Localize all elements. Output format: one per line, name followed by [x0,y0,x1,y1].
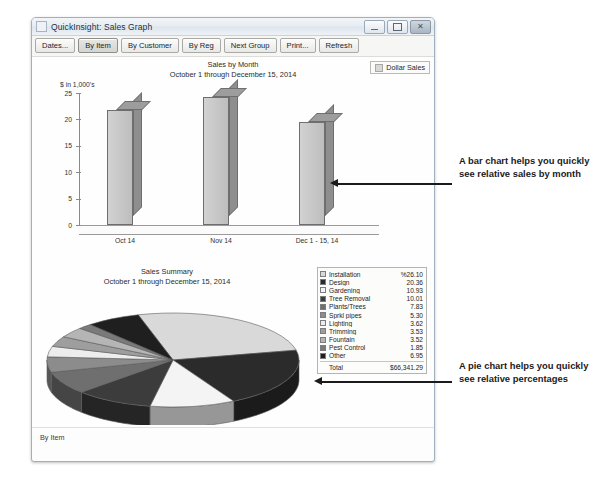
quickinsight-window: QuickInsight: Sales Graph ✕ Dates... By … [31,17,435,462]
toolbar-button-dates[interactable]: Dates... [35,38,75,53]
pie-svg [42,305,304,425]
legend-row: Other6.95 [320,352,424,360]
y-tick [76,93,81,94]
legend-value: 6.95 [410,352,424,359]
legend-swatch-icon [320,287,326,293]
legend-label: Fountain [329,336,410,343]
pie-chart-graphic [42,305,304,425]
legend-value: 10.01 [406,295,424,302]
legend-label: Sprkl pipes [329,312,410,319]
y-tick [76,199,81,200]
legend-value: 3.52 [410,336,424,343]
bar-chart: $ in 1,000's 0510152025 Oct 14Nov 14Dec … [32,79,432,277]
legend-value: 10.93 [406,287,424,294]
legend-value: 3.62 [410,320,424,327]
legend-row: Installation%26.10 [320,270,424,278]
bar-face [107,110,133,225]
legend-row: Fountain3.52 [320,336,424,344]
y-tick-label: 20 [46,116,72,123]
toolbar-button-by-reg[interactable]: By Reg [182,38,221,53]
bar-face [299,122,325,225]
title-bar[interactable]: QuickInsight: Sales Graph ✕ [32,18,434,36]
legend-swatch-icon [320,296,326,302]
legend-label: Lighting [329,320,410,327]
legend-value: %26.10 [401,271,424,278]
toolbar-button-by-item[interactable]: By Item [78,38,118,53]
y-tick-label: 15 [46,142,72,149]
legend-label: Installation [329,271,401,278]
x-tick-label: Dec 1 - 15, 14 [283,237,351,244]
x-tick-label: Nov 14 [187,237,255,244]
legend-swatch-icon [320,345,326,351]
toolbar-button-print[interactable]: Print... [280,38,316,53]
legend-row: Trimming3.53 [320,327,424,335]
pie-chart-subtitle: October 1 through December 15, 2014 [32,277,302,287]
legend-swatch-icon [320,312,326,318]
report-canvas: Sales by Month October 1 through Decembe… [32,57,434,446]
legend-row: Design20.36 [320,278,424,286]
x-tick-label: Oct 14 [91,237,159,244]
legend-total-label: Total [320,364,390,371]
status-bar: By Item [32,427,434,446]
screenshot-root: QuickInsight: Sales Graph ✕ Dates... By … [0,0,600,489]
minimize-button[interactable] [364,20,385,34]
legend-row: Gardening10.93 [320,286,424,294]
bar-chart-floor [79,225,379,235]
dollar-sales-legend[interactable]: Dollar Sales [370,61,430,74]
bar-annotation-text: A bar chart helps you quickly see relati… [459,155,594,180]
app-icon [36,21,47,32]
y-tick-label: 5 [46,195,72,202]
window-title: QuickInsight: Sales Graph [51,22,152,32]
pie-annotation-text: A pie chart helps you quickly see relati… [459,360,597,385]
y-tick-label: 10 [46,169,72,176]
legend-label: Plants/Trees [329,303,410,310]
legend-label: Trimming [329,328,410,335]
legend-value: 3.53 [410,328,424,335]
y-tick [76,119,81,120]
window-controls: ✕ [364,20,431,34]
bar-side [133,92,142,216]
legend-swatch-icon [320,320,326,326]
y-tick [76,225,81,226]
legend-total-value: $66,341.29 [390,364,424,371]
legend-label: Gardening [329,287,406,294]
legend-swatch-icon [320,337,326,343]
legend-label: Other [329,352,410,359]
y-tick [76,146,81,147]
legend-swatch-icon [320,353,326,359]
legend-label: Design [329,279,406,286]
legend-value: 7.83 [410,303,424,310]
pie-chart-title: Sales Summary [32,267,302,277]
legend-row: Plants/Trees7.83 [320,303,424,311]
legend-swatch-icon [320,304,326,310]
dollar-sales-swatch-icon [375,64,383,72]
toolbar-button-refresh[interactable]: Refresh [319,38,360,53]
bar-top [308,113,343,122]
legend-value: 20.36 [406,279,424,286]
pie-chart-section: Sales Summary October 1 through December… [32,267,432,447]
dollar-sales-label: Dollar Sales [386,63,425,72]
toolbar-button-by-customer[interactable]: By Customer [121,38,179,53]
maximize-button[interactable] [387,20,408,34]
legend-value: 5.30 [410,312,424,319]
bar-side [229,79,238,216]
legend-row: Sprkl pipes5.30 [320,311,424,319]
y-tick-label: 0 [46,222,72,229]
bar-top [212,88,247,97]
bar-chart-y-axis [79,93,80,233]
close-button[interactable]: ✕ [410,20,431,34]
bar-face [203,97,229,225]
toolbar: Dates... By Item By Customer By Reg Next… [32,36,434,57]
legend-total-row: Total$66,341.29 [320,361,424,372]
toolbar-button-next-group[interactable]: Next Group [224,38,277,53]
y-tick-label: 25 [46,90,72,97]
legend-row: Lighting3.62 [320,319,424,327]
legend-label: Pest Control [329,344,410,351]
legend-swatch-icon [320,271,326,277]
legend-row: Tree Removal10.01 [320,295,424,303]
pie-chart-heading: Sales Summary October 1 through December… [32,267,302,286]
bar-chart-ylabel: $ in 1,000's [60,81,95,88]
y-tick [76,172,81,173]
legend-label: Tree Removal [329,295,406,302]
legend-value: 1.85 [410,344,424,351]
